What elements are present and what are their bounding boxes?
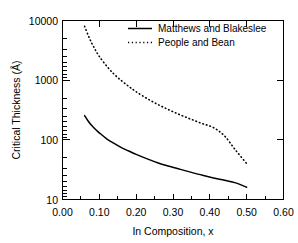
y-tick-label-10: 10 [46,194,58,206]
x-axis-title: In Composition, x [132,225,214,237]
legend-label-matthews-and-blakeslee: Matthews and Blakeslee [158,23,267,34]
x-tick-label-3: 0.30 [163,206,184,218]
x-tick-label-0: 0.00 [52,206,73,218]
x-tick-label-6: 0.60 [273,206,294,218]
legend-label-people-and-bean: People and Bean [158,37,235,48]
x-tick-label-5: 0.50 [236,206,257,218]
x-tick-label-2: 0.20 [126,206,147,218]
critical-thickness-chart: 10000 1000 100 10 0.00 0.10 0.20 0.30 0.… [0,0,298,243]
y-tick-label-100: 100 [40,134,58,146]
figure-container: 10000 1000 100 10 0.00 0.10 0.20 0.30 0.… [0,0,298,243]
x-tick-label-4: 0.40 [200,206,221,218]
y-tick-label-1000: 1000 [35,74,59,86]
y-tick-label-10000: 10000 [29,15,58,27]
x-tick-label-1: 0.10 [89,206,110,218]
y-axis-title: Critical Thickness (Å) [10,61,22,160]
